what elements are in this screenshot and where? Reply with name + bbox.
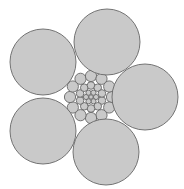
large-circle [73, 119, 139, 185]
large-circle [112, 64, 178, 130]
small-circle [76, 97, 84, 105]
circle-packing-diagram [0, 0, 184, 189]
small-circle [64, 91, 75, 102]
small-circle [75, 73, 86, 84]
large-circle [10, 98, 76, 164]
large-circle [74, 9, 140, 75]
large-circle [10, 29, 76, 95]
diagram-svg [0, 0, 184, 189]
small-circle [98, 90, 106, 98]
